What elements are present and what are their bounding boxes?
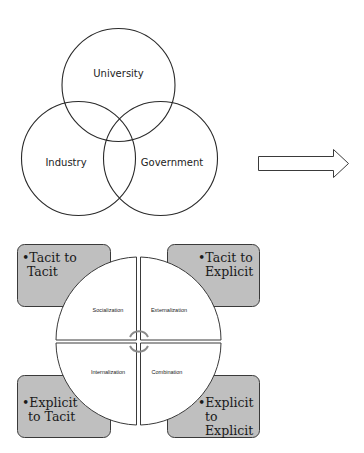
venn-diagram: University Industry Government [22, 29, 218, 216]
venn-label-government: Government [141, 157, 203, 168]
box-label-tacit-to-tacit-2: Tacit [27, 264, 58, 279]
box-label-explicit-to-explicit-3: Explicit [205, 423, 253, 438]
cycle-arrows-icon [130, 331, 148, 351]
box-label-tacit-to-tacit-1: •Tacit to [22, 250, 77, 265]
box-label-explicit-to-tacit-1: •Explicit [22, 395, 78, 410]
box-label-tacit-to-explicit-2: Explicit [205, 264, 253, 279]
box-label-explicit-to-tacit-2: to Tacit [28, 409, 75, 424]
label-internalization: Internalization [91, 369, 125, 375]
seci-model: Socialization Externalization Internaliz… [18, 245, 260, 439]
venn-label-university: University [93, 68, 144, 79]
venn-circle-university [62, 29, 175, 142]
box-label-tacit-to-explicit-1: •Tacit to [198, 250, 253, 265]
box-label-explicit-to-explicit-2: to [205, 409, 218, 424]
label-socialization: Socialization [93, 307, 124, 313]
diagram-canvas: University Industry Government Socializa… [0, 0, 364, 453]
label-externalization: Externalization [151, 307, 187, 313]
venn-label-industry: Industry [45, 157, 86, 168]
label-combination: Combination [152, 369, 183, 375]
right-arrow-icon [259, 150, 349, 178]
box-label-explicit-to-explicit-1: •Explicit [198, 395, 254, 410]
